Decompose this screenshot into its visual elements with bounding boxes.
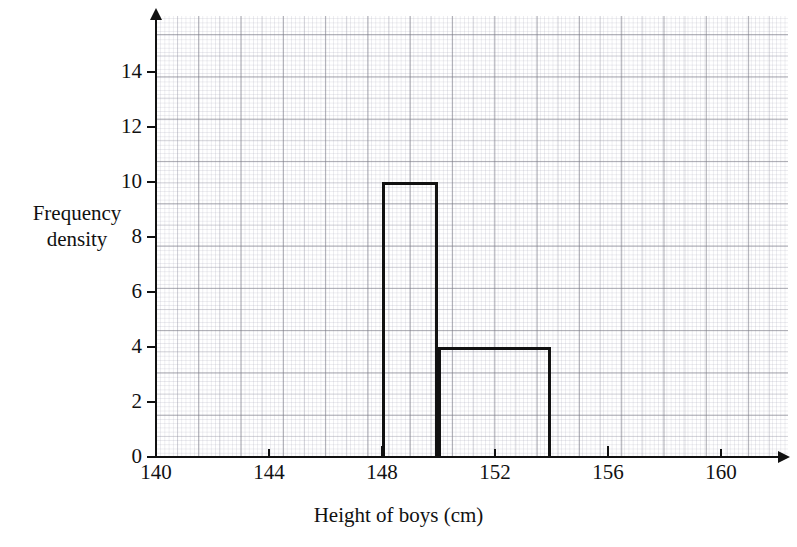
y-tick-4 [147, 346, 157, 348]
chart-canvas: 0 2 4 6 8 10 12 14 140 144 148 152 156 1… [0, 0, 797, 547]
y-axis-arrow-icon [150, 8, 162, 20]
x-tick-label-148: 148 [352, 462, 412, 483]
x-tick-140 [155, 446, 157, 457]
y-tick-6 [147, 291, 157, 293]
y-tick-12 [147, 126, 157, 128]
y-tick-label-4: 4 [108, 336, 142, 357]
x-tick-label-156: 156 [578, 462, 638, 483]
y-tick-8 [147, 236, 157, 238]
y-tick-2 [147, 401, 157, 403]
x-tick-label-152: 152 [465, 462, 525, 483]
histogram-bar-148-150 [382, 182, 438, 457]
x-tick-label-160: 160 [691, 462, 751, 483]
y-axis-title: Frequency density [12, 200, 142, 253]
y-tick-14 [147, 71, 157, 73]
y-axis-title-line1: Frequency [12, 200, 142, 226]
y-tick-label-2: 2 [108, 391, 142, 412]
x-axis-arrow-icon [778, 451, 790, 463]
x-axis-title: Height of boys (cm) [0, 503, 797, 528]
x-tick-144 [268, 449, 270, 457]
y-tick-label-6: 6 [108, 281, 142, 302]
y-tick-label-14: 14 [108, 61, 142, 82]
y-tick-10 [147, 181, 157, 183]
y-tick-label-10: 10 [108, 171, 142, 192]
histogram-bar-150-154 [438, 347, 551, 457]
x-tick-156 [607, 446, 609, 457]
y-axis-title-line2: density [12, 226, 142, 252]
x-tick-160 [720, 449, 722, 457]
x-tick-label-140: 140 [126, 462, 186, 483]
y-tick-label-12: 12 [108, 116, 142, 137]
x-tick-label-144: 144 [239, 462, 299, 483]
